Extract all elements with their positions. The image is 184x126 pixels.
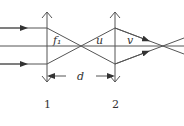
label-f1: f₁ <box>52 34 61 47</box>
label-d: d <box>77 70 84 83</box>
label-v: v <box>127 34 134 47</box>
lens-2-label: 2 <box>112 98 119 111</box>
lens-diagram: f₁ u v d 1 2 <box>0 0 184 126</box>
label-u: u <box>96 34 103 47</box>
lens-1 <box>42 12 52 82</box>
lens-1-label: 1 <box>44 98 51 111</box>
lens-2 <box>110 12 120 82</box>
